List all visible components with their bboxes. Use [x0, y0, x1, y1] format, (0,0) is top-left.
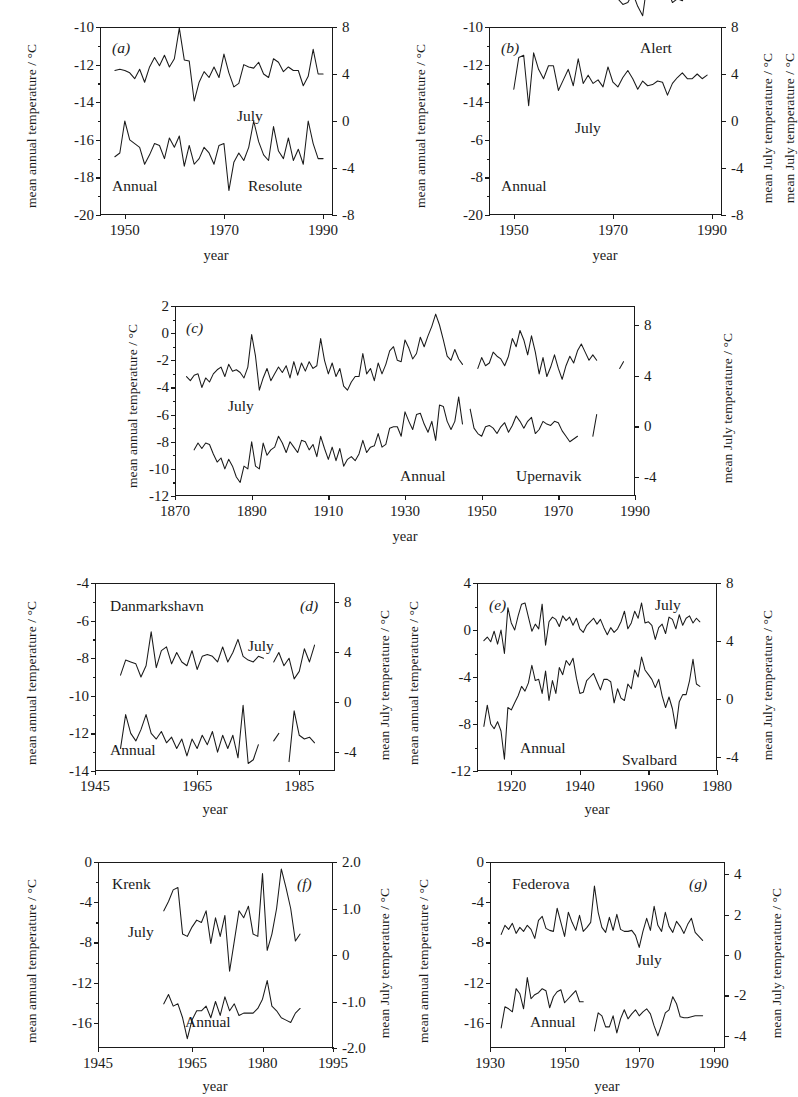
panel-label-g: (g) — [689, 876, 707, 892]
ytick-g — [486, 942, 491, 943]
station-label-g: Federova — [512, 876, 570, 892]
ytick-label-g: -16 — [432, 1014, 484, 1031]
ytick-g — [486, 862, 491, 863]
xtick-label-g: 1950 — [550, 1055, 580, 1072]
ytick-g — [486, 983, 491, 984]
y2tick-g — [724, 1036, 729, 1037]
ytick-minor-g — [488, 1003, 491, 1004]
ytick-label-g: -12 — [432, 974, 484, 991]
xtick-label-g: 1930 — [475, 1055, 505, 1072]
y2tick-label-g: 4 — [734, 866, 742, 883]
y2tick-label-g: 0 — [734, 947, 742, 964]
xtick-label-g: 1990 — [699, 1055, 729, 1072]
ytick-label-g: -8 — [432, 934, 484, 951]
ytick-minor-g — [488, 963, 491, 964]
xtick-g — [714, 1047, 715, 1052]
ytick-minor-g — [488, 882, 491, 883]
y2tick-label-g: -4 — [734, 1027, 747, 1044]
ytick-label-g: 0 — [432, 854, 484, 871]
y2tick-label-g: 2 — [734, 906, 742, 923]
xtick-label-g: 1970 — [624, 1055, 654, 1072]
y-axis-title-g: mean annual temperature / °C — [416, 883, 432, 1043]
ytick-g — [486, 902, 491, 903]
y2tick-g — [724, 955, 729, 956]
xtick-g — [490, 1047, 491, 1052]
xtick-g — [565, 1047, 566, 1052]
ytick-g — [486, 1023, 491, 1024]
x-axis-title-g: year — [567, 1078, 647, 1095]
series-label-july-g: July — [636, 952, 662, 968]
y2-axis-title-g: mean July temperature / °C — [769, 883, 785, 1043]
y2tick-label-g: -2 — [734, 987, 747, 1004]
y2tick-g — [724, 995, 729, 996]
y2-axis-title-b: mean July temperature / °C — [782, 48, 798, 208]
xtick-g — [639, 1047, 640, 1052]
y2tick-g — [724, 874, 729, 875]
series-label-annual-g: Annual — [530, 1014, 576, 1030]
ytick-minor-g — [488, 922, 491, 923]
y2tick-g — [724, 915, 729, 916]
ytick-label-g: -4 — [432, 894, 484, 911]
